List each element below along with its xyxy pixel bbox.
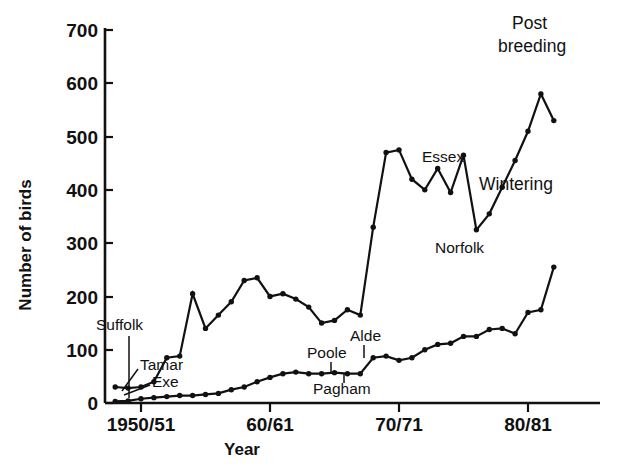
data-point <box>125 398 130 403</box>
data-point <box>280 291 285 296</box>
y-tick-label-300: 300 <box>66 233 98 254</box>
data-point <box>216 312 221 317</box>
x-tick-label-1980: 80/81 <box>504 414 552 435</box>
chart-canvas: 700 600 500 400 300 200 100 0 1950/51 60… <box>0 0 620 468</box>
y-tick-label-700: 700 <box>66 20 98 41</box>
data-point <box>500 326 505 331</box>
data-point <box>448 341 453 346</box>
data-point <box>177 393 182 398</box>
data-point <box>358 371 363 376</box>
data-point <box>203 392 208 397</box>
data-point <box>512 158 517 163</box>
y-tick-label-100: 100 <box>66 340 98 361</box>
y-tick-label-500: 500 <box>66 127 98 148</box>
y-axis-tick-labels: 700 600 500 400 300 200 100 0 <box>66 20 98 414</box>
data-point <box>487 211 492 216</box>
x-tick-label-1970: 70/71 <box>375 414 423 435</box>
data-point <box>216 391 221 396</box>
data-point <box>138 396 143 401</box>
data-point <box>293 369 298 374</box>
data-point <box>332 318 337 323</box>
annotation-label-pagham: Pagham <box>313 380 371 397</box>
data-point <box>164 394 169 399</box>
data-point <box>538 91 543 96</box>
annotation-label-post-breeding-line2: breeding <box>498 36 566 56</box>
data-point <box>525 310 530 315</box>
annotation-label-post-breeding-line1: Post <box>512 13 547 33</box>
data-point <box>242 278 247 283</box>
annotation-layer: Suffolk Tamar Exe Poole Pagham Alde Esse… <box>96 13 566 398</box>
annotation-label-wintering: Wintering <box>479 174 553 194</box>
x-tick-label-1960: 60/61 <box>246 414 294 435</box>
annotation-label-exe: Exe <box>152 373 179 390</box>
data-point <box>280 371 285 376</box>
data-point <box>409 355 414 360</box>
data-point <box>461 334 466 339</box>
data-point <box>538 307 543 312</box>
data-point <box>525 129 530 134</box>
annotation-label-poole: Poole <box>307 344 347 361</box>
data-point <box>422 187 427 192</box>
y-tick-label-600: 600 <box>66 73 98 94</box>
x-axis-title: Year <box>224 440 260 459</box>
data-point <box>358 312 363 317</box>
data-point <box>306 371 311 376</box>
y-tick-label-0: 0 <box>87 393 98 414</box>
data-point <box>267 375 272 380</box>
data-point <box>345 307 350 312</box>
data-point <box>512 331 517 336</box>
data-point <box>229 299 234 304</box>
data-point <box>474 334 479 339</box>
data-point <box>306 304 311 309</box>
data-point <box>254 275 259 280</box>
data-point <box>319 371 324 376</box>
data-point <box>487 327 492 332</box>
data-point <box>242 384 247 389</box>
data-point <box>551 118 556 123</box>
data-point <box>396 147 401 152</box>
x-axis-tick-labels: 1950/51 60/61 70/71 80/81 <box>107 414 553 435</box>
bird-population-line-chart: 700 600 500 400 300 200 100 0 1950/51 60… <box>0 0 620 468</box>
annotation-label-norfolk: Norfolk <box>435 239 484 256</box>
data-point <box>383 353 388 358</box>
data-point <box>229 387 234 392</box>
data-point <box>203 326 208 331</box>
data-point <box>371 355 376 360</box>
data-point <box>190 291 195 296</box>
data-point <box>319 320 324 325</box>
data-point <box>113 399 118 404</box>
annotation-label-alde: Alde <box>350 327 381 344</box>
data-point <box>551 264 556 269</box>
annotation-label-essex: Essex <box>422 148 464 165</box>
data-point <box>409 177 414 182</box>
data-point <box>371 224 376 229</box>
data-point <box>435 166 440 171</box>
data-point <box>332 370 337 375</box>
data-point <box>448 190 453 195</box>
y-tick-label-200: 200 <box>66 287 98 308</box>
data-point <box>474 227 479 232</box>
data-point <box>113 384 118 389</box>
data-point <box>151 395 156 400</box>
annotation-label-suffolk: Suffolk <box>96 316 143 333</box>
x-tick-label-1950: 1950/51 <box>107 414 176 435</box>
axes-group: 700 600 500 400 300 200 100 0 1950/51 60… <box>16 20 600 459</box>
data-point <box>267 294 272 299</box>
data-point <box>422 347 427 352</box>
data-point <box>190 393 195 398</box>
y-tick-label-400: 400 <box>66 180 98 201</box>
annotation-label-tamar: Tamar <box>140 356 183 373</box>
data-point <box>293 296 298 301</box>
data-point <box>435 342 440 347</box>
x-axis-ticks <box>141 403 528 412</box>
data-point <box>383 150 388 155</box>
y-axis-title: Number of birds <box>16 179 35 310</box>
data-point <box>254 379 259 384</box>
data-point <box>345 371 350 376</box>
data-point <box>396 358 401 363</box>
